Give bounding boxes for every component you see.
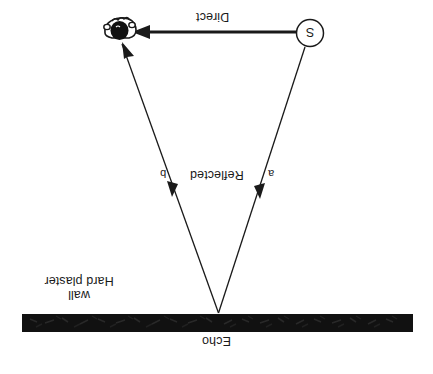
- listener-head-icon: [104, 18, 136, 41]
- listener-ear-right: [129, 22, 135, 27]
- label-hard-plaster-wall: wallHard plaster: [33, 274, 125, 302]
- listener-ear-left: [104, 24, 110, 29]
- hard-plaster-wall: [22, 314, 413, 332]
- listener-head-fill: [111, 21, 129, 40]
- label-path-a: a: [268, 168, 274, 180]
- label-wall-line2: wall: [68, 288, 90, 302]
- direct-ray: [132, 25, 296, 39]
- acoustics-diagram-svg: [0, 0, 433, 374]
- label-path-b: b: [160, 168, 166, 180]
- label-direct: Direct: [196, 10, 229, 24]
- label-source-s: S: [303, 25, 317, 39]
- label-reflected: Reflected: [190, 168, 244, 182]
- label-wall-line1: Hard plaster: [44, 274, 113, 288]
- reflected-ray-a-arrowhead: [254, 183, 265, 199]
- diagram-canvas: Direct Reflected a b Echo wallHard plast…: [0, 0, 433, 374]
- label-echo: Echo: [202, 334, 231, 348]
- reflected-ray-b-arrowhead-end: [122, 42, 134, 59]
